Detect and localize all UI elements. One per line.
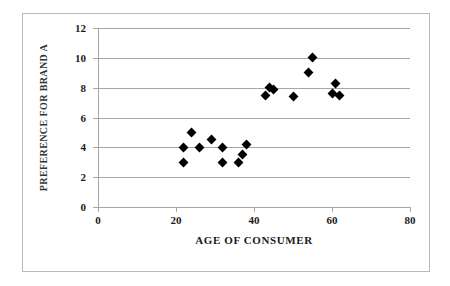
x-axis-tick [410,207,411,212]
data-point [187,127,197,137]
y-axis-tick-label: 8 [46,83,86,94]
x-axis-title: AGE OF CONSUMER [98,234,410,246]
data-point [179,157,189,167]
data-point [179,142,189,152]
y-axis-tick-label: 4 [46,142,86,153]
data-point [308,53,318,63]
gridline-y [98,147,410,148]
x-axis-tick [176,207,177,212]
y-axis-tick-label: 0 [46,202,86,213]
y-axis-tick-label: 6 [46,113,86,124]
y-axis-tick [93,58,98,59]
gridline-y [98,177,410,178]
x-axis-tick [254,207,255,212]
gridline-y [98,88,410,89]
x-axis-tick-label: 20 [156,215,196,226]
x-axis-tick [98,207,99,212]
data-point [304,68,314,78]
data-point [218,142,228,152]
y-axis-tick [93,28,98,29]
y-axis-tick [93,88,98,89]
y-axis-tick [93,147,98,148]
gridline-y [98,28,410,29]
x-axis-tick [332,207,333,212]
plot-area [98,28,410,207]
x-axis-tick-label: 40 [234,215,274,226]
y-axis-tick-label: 12 [46,23,86,34]
data-point [194,142,204,152]
y-axis-tick [93,177,98,178]
gridline-y [98,118,410,119]
y-axis-line [98,28,99,207]
data-point [218,157,228,167]
x-axis-tick-label: 80 [390,215,430,226]
y-axis-tick-label: 10 [46,53,86,64]
y-axis-tick-label: 2 [46,172,86,183]
x-axis-tick-label: 60 [312,215,352,226]
data-point [288,92,298,102]
gridline-y [98,58,410,59]
data-point [206,135,216,145]
data-point [331,78,341,88]
x-axis-tick-label: 0 [78,215,118,226]
y-axis-tick [93,118,98,119]
